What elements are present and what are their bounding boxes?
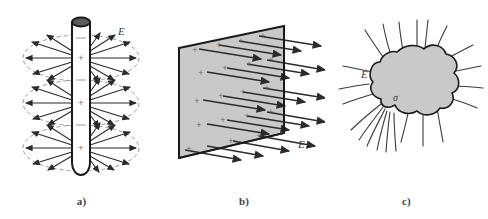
svg-text:+: +	[78, 143, 83, 153]
svg-text:+: +	[268, 55, 273, 65]
svg-text:+: +	[240, 87, 245, 97]
svg-text:+: +	[228, 136, 233, 146]
svg-text:+: +	[222, 63, 227, 73]
svg-text:+: +	[78, 53, 83, 63]
svg-text:+: +	[198, 68, 203, 78]
cylinder-top-cap	[72, 18, 90, 27]
panel-c-drawing: E σ	[325, 0, 488, 219]
svg-text:+: +	[218, 91, 223, 101]
svg-text:+: +	[194, 96, 199, 106]
field-label-c: E	[360, 68, 368, 80]
svg-text:+: +	[260, 31, 265, 41]
svg-text:+: +	[238, 36, 243, 46]
field-label-a: E	[117, 25, 125, 37]
svg-text:+: +	[216, 40, 221, 50]
svg-text:+: +	[246, 59, 251, 69]
svg-text:+: +	[192, 45, 197, 55]
svg-text:+: +	[196, 120, 201, 130]
field-label-b: E	[297, 138, 305, 150]
panel-b-plane: + + + + + + + + + + + + + + + + + + +	[163, 0, 325, 219]
panel-b-drawing: + + + + + + + + + + + + + + + + + + +	[163, 0, 325, 219]
panel-a-drawing: + + + E	[0, 0, 163, 219]
svg-text:+: +	[78, 98, 83, 108]
svg-text:+: +	[244, 111, 249, 121]
svg-text:+: +	[220, 115, 225, 125]
panel-a-cylinder: + + + E a)	[0, 0, 163, 219]
svg-text:+: +	[264, 83, 269, 93]
svg-text:+: +	[256, 131, 261, 141]
caption-b: b)	[163, 195, 325, 207]
panel-c-irregular-body: E σ c)	[325, 0, 488, 219]
caption-c: c)	[325, 195, 488, 207]
irregular-conductor	[370, 45, 459, 115]
caption-a: a)	[0, 195, 163, 207]
svg-text:+: +	[268, 107, 273, 117]
svg-text:+: +	[186, 144, 191, 154]
figure-container: + + + E a)	[0, 0, 488, 219]
